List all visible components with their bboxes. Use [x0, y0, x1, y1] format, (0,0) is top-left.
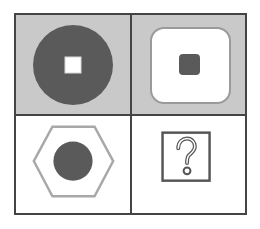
- cell-top-left: [16, 15, 132, 116]
- cell-top-right: [132, 15, 245, 116]
- cell-bottom-left: [16, 116, 132, 213]
- cell-bottom-right: [132, 116, 245, 213]
- hexagon-with-circle-icon: [16, 116, 130, 213]
- rounded-square-icon: [132, 15, 245, 114]
- question-mark-icon: [132, 116, 245, 213]
- puzzle-grid: [14, 13, 247, 215]
- circle-with-square-icon: [16, 15, 130, 114]
